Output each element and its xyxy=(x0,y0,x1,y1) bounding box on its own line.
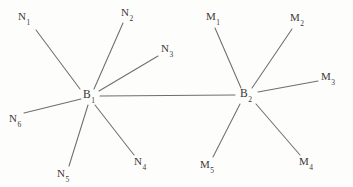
element-subscript: 5 xyxy=(210,166,214,175)
ligand-label-n4: N4 xyxy=(134,156,146,170)
ligand-label-m1: M1 xyxy=(206,11,220,25)
element-symbol: M xyxy=(200,158,210,170)
center-label-b2: B2 xyxy=(240,88,252,102)
center-label-b1: B1 xyxy=(83,89,95,103)
element-symbol: N xyxy=(161,42,169,54)
element-symbol: N xyxy=(9,112,17,124)
element-subscript: 4 xyxy=(309,163,313,172)
ligand-label-n2: N2 xyxy=(121,7,133,21)
bond-b1-b2 xyxy=(100,95,235,96)
element-subscript: 2 xyxy=(248,95,252,104)
bond-b2-m3 xyxy=(258,81,318,92)
element-subscript: 3 xyxy=(169,50,173,59)
bond-b1-n4 xyxy=(95,105,134,155)
ligand-label-m4: M4 xyxy=(299,156,313,170)
element-subscript: 1 xyxy=(26,18,30,27)
element-symbol: N xyxy=(121,6,129,18)
element-symbol: B xyxy=(240,87,248,99)
element-subscript: 2 xyxy=(300,19,304,28)
element-symbol: M xyxy=(299,155,309,167)
ligand-label-n3: N3 xyxy=(161,43,173,57)
element-symbol: M xyxy=(290,11,300,23)
bond-b1-n1 xyxy=(36,30,80,89)
element-subscript: 1 xyxy=(216,18,220,27)
element-symbol: N xyxy=(57,167,65,179)
bond-b1-n5 xyxy=(69,105,88,166)
element-symbol: N xyxy=(18,10,26,22)
element-subscript: 1 xyxy=(91,96,95,105)
element-subscript: 3 xyxy=(331,78,335,87)
element-symbol: M xyxy=(321,70,331,82)
ligand-label-m3: M3 xyxy=(321,71,335,85)
bond-b2-m5 xyxy=(213,104,240,157)
ligand-label-n6: N6 xyxy=(9,113,21,127)
bond-b2-m2 xyxy=(252,29,292,88)
bond-b1-n3 xyxy=(99,56,158,91)
element-subscript: 2 xyxy=(129,14,133,23)
molecular-diagram: B1B2N1N2N3N4N5N6M1M2M3M4M5 xyxy=(0,0,353,187)
element-symbol: N xyxy=(134,155,142,167)
element-symbol: M xyxy=(206,10,216,22)
ligand-label-n1: N1 xyxy=(18,11,30,25)
bond-b2-m1 xyxy=(215,28,241,88)
ligand-label-m2: M2 xyxy=(290,12,304,26)
bond-b2-m4 xyxy=(256,104,300,155)
bond-b1-n6 xyxy=(24,99,81,113)
ligand-label-m5: M5 xyxy=(200,159,214,173)
element-subscript: 4 xyxy=(142,163,146,172)
element-symbol: B xyxy=(83,88,91,100)
element-subscript: 6 xyxy=(17,120,21,129)
element-subscript: 5 xyxy=(65,175,69,184)
ligand-label-n5: N5 xyxy=(57,168,69,182)
